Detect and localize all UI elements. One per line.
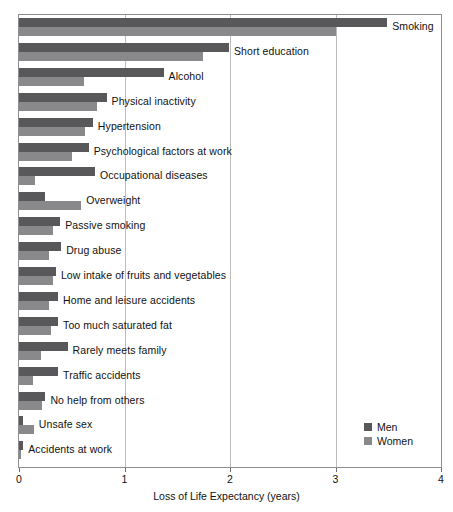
bar-women xyxy=(19,27,336,36)
bar-group: Drug abuse xyxy=(19,242,441,264)
bar-men xyxy=(19,392,45,401)
bar-category-label: Smoking xyxy=(392,17,434,36)
bar-women xyxy=(19,127,85,136)
bar-group: Traffic accidents xyxy=(19,367,441,389)
x-axis-title: Loss of Life Expectancy (years) xyxy=(0,490,453,502)
bar-women xyxy=(19,326,51,335)
x-tick-mark xyxy=(336,468,337,472)
bar-men xyxy=(19,267,56,276)
bar-category-label: Psychological factors at work xyxy=(94,142,232,161)
bar-women xyxy=(19,77,84,86)
bar-women xyxy=(19,201,81,210)
bar-category-label: Unsafe sex xyxy=(39,415,93,434)
bar-group: Alcohol xyxy=(19,68,441,90)
x-tick-label: 1 xyxy=(122,473,128,485)
bar-men xyxy=(19,192,45,201)
bar-category-label: Rarely meets family xyxy=(73,341,167,360)
bar-category-label: Alcohol xyxy=(169,67,204,86)
bar-men xyxy=(19,18,387,27)
x-tick-label: 4 xyxy=(438,473,444,485)
x-tick-mark xyxy=(230,468,231,472)
bar-group: Physical inactivity xyxy=(19,93,441,115)
bar-men xyxy=(19,416,23,425)
bar-men xyxy=(19,118,93,127)
bar-men xyxy=(19,317,58,326)
bar-series-layer: SmokingShort educationAlcoholPhysical in… xyxy=(19,15,441,467)
bar-women xyxy=(19,251,49,260)
bar-group: No help from others xyxy=(19,392,441,414)
legend-item: Women xyxy=(364,435,413,447)
bar-women xyxy=(19,450,21,459)
bar-women xyxy=(19,351,41,360)
bar-category-label: Passive smoking xyxy=(65,216,145,235)
bar-group: Short education xyxy=(19,43,441,65)
bar-category-label: Traffic accidents xyxy=(63,366,141,385)
bar-group: Psychological factors at work xyxy=(19,143,441,165)
bar-category-label: Occupational diseases xyxy=(100,166,208,185)
bar-category-label: No help from others xyxy=(50,391,144,410)
bar-men xyxy=(19,292,58,301)
bar-women xyxy=(19,176,35,185)
bar-women xyxy=(19,152,72,161)
x-tick-mark xyxy=(19,468,20,472)
bar-category-label: Short education xyxy=(234,42,309,61)
bar-group: Rarely meets family xyxy=(19,342,441,364)
x-tick-label: 0 xyxy=(16,473,22,485)
bar-group: Occupational diseases xyxy=(19,167,441,189)
legend-label: Women xyxy=(377,435,413,447)
bar-men xyxy=(19,143,89,152)
bar-category-label: Physical inactivity xyxy=(112,92,196,111)
bar-men xyxy=(19,43,229,52)
bar-chart: SmokingShort educationAlcoholPhysical in… xyxy=(0,0,453,512)
bar-women xyxy=(19,301,49,310)
legend-item: Men xyxy=(364,421,413,433)
bar-group: Home and leisure accidents xyxy=(19,292,441,314)
x-axis: 01234 xyxy=(0,468,453,488)
bar-men xyxy=(19,367,58,376)
bar-women xyxy=(19,425,34,434)
bar-group: Hypertension xyxy=(19,118,441,140)
bar-group: Overweight xyxy=(19,192,441,214)
legend-swatch-icon xyxy=(364,437,372,445)
bar-group: Low intake of fruits and vegetables xyxy=(19,267,441,289)
bar-men xyxy=(19,342,68,351)
bar-women xyxy=(19,276,53,285)
bar-group: Passive smoking xyxy=(19,217,441,239)
bar-women xyxy=(19,52,203,61)
bar-category-label: Drug abuse xyxy=(66,241,121,260)
legend-swatch-icon xyxy=(364,423,372,431)
bar-category-label: Hypertension xyxy=(98,117,161,136)
bar-men xyxy=(19,217,60,226)
bar-category-label: Accidents at work xyxy=(28,440,112,459)
bar-men xyxy=(19,68,164,77)
chart-legend: MenWomen xyxy=(364,421,413,449)
bar-women xyxy=(19,102,97,111)
x-tick-label: 3 xyxy=(333,473,339,485)
bar-men xyxy=(19,167,95,176)
bar-women xyxy=(19,226,53,235)
bar-group: Smoking xyxy=(19,18,441,40)
bar-category-label: Too much saturated fat xyxy=(63,316,172,335)
x-tick-mark xyxy=(125,468,126,472)
bar-group: Too much saturated fat xyxy=(19,317,441,339)
bar-men xyxy=(19,93,107,102)
bar-category-label: Home and leisure accidents xyxy=(63,291,195,310)
bar-women xyxy=(19,401,42,410)
x-tick-mark xyxy=(441,468,442,472)
legend-label: Men xyxy=(377,421,397,433)
bar-category-label: Low intake of fruits and vegetables xyxy=(61,266,226,285)
bar-women xyxy=(19,376,33,385)
bar-men xyxy=(19,242,61,251)
x-tick-label: 2 xyxy=(227,473,233,485)
bar-men xyxy=(19,441,23,450)
bar-category-label: Overweight xyxy=(86,191,140,210)
plot-area: SmokingShort educationAlcoholPhysical in… xyxy=(18,14,442,468)
